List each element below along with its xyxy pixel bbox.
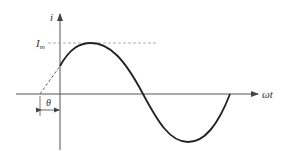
y-axis-label: i: [50, 11, 53, 23]
x-axis-label: ωt: [262, 88, 274, 100]
phase-label: θ: [46, 97, 51, 108]
amplitude-label: Im: [35, 37, 45, 51]
sine-curve: [60, 43, 230, 142]
sine-diagram: i ωt Im θ: [0, 0, 288, 158]
phase-dashed-line: [40, 66, 60, 94]
